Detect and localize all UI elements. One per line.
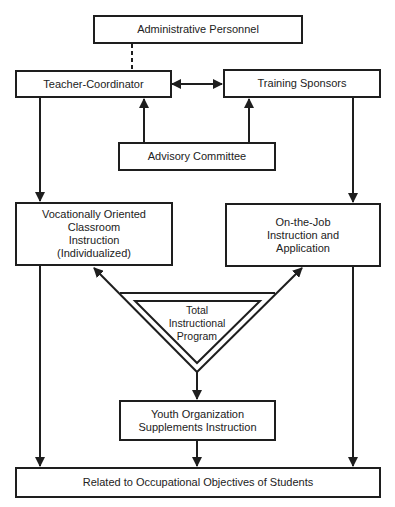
classroom-line-2: Classroom <box>68 221 121 234</box>
on-the-job-box: On-the-Job Instruction and Application <box>225 203 381 267</box>
classroom-line-4: (Individualized) <box>57 247 131 260</box>
admin-personnel-label: Administrative Personnel <box>137 23 259 36</box>
total-program-label: Total Instructional Program <box>147 304 247 343</box>
total-line-3: Program <box>147 330 247 343</box>
occupational-objectives-label: Related to Occupational Objectives of St… <box>83 476 314 489</box>
youth-line-2: Supplements Instruction <box>138 421 256 434</box>
total-line-1: Total <box>147 304 247 317</box>
advisory-committee-box: Advisory Committee <box>118 142 276 171</box>
training-sponsors-label: Training Sponsors <box>258 77 347 90</box>
admin-personnel-box: Administrative Personnel <box>93 15 303 44</box>
teacher-coordinator-label: Teacher-Coordinator <box>43 78 143 91</box>
classroom-line-1: Vocationally Oriented <box>42 208 146 221</box>
classroom-line-3: Instruction <box>69 234 120 247</box>
training-sponsors-box: Training Sponsors <box>223 69 381 98</box>
ojt-line-1: On-the-Job <box>275 216 330 229</box>
youth-line-1: Youth Organization <box>151 408 244 421</box>
occupational-objectives-box: Related to Occupational Objectives of St… <box>15 467 381 498</box>
total-line-2: Instructional <box>147 317 247 330</box>
teacher-coordinator-box: Teacher-Coordinator <box>15 70 172 98</box>
ojt-line-3: Application <box>276 242 330 255</box>
advisory-committee-label: Advisory Committee <box>148 150 246 163</box>
youth-organization-box: Youth Organization Supplements Instructi… <box>119 400 276 441</box>
ojt-line-2: Instruction and <box>267 229 339 242</box>
classroom-instruction-box: Vocationally Oriented Classroom Instruct… <box>15 202 173 266</box>
